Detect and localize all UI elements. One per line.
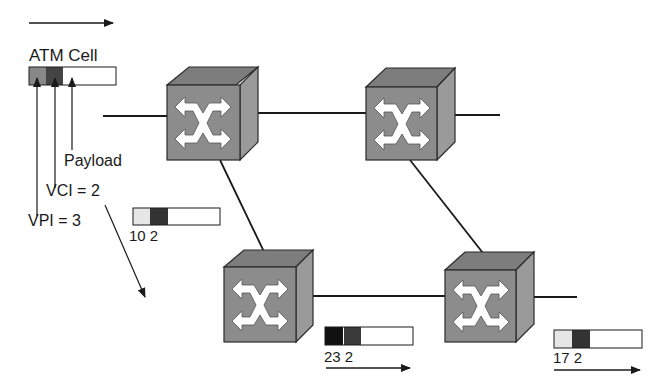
cell-2-header	[325, 327, 413, 345]
cell-2-label: 23 2	[324, 349, 353, 364]
cell-1-label: 10 2	[129, 228, 158, 243]
atm-cell-title: ATM Cell	[29, 47, 98, 64]
cell-3-label: 17 2	[553, 350, 582, 365]
vpi-label: VPI = 3	[28, 213, 81, 229]
vci-label: VCI = 2	[46, 183, 100, 199]
cell-1-header	[133, 208, 220, 225]
switch-top-left[interactable]	[167, 67, 258, 160]
cell-3-header	[554, 330, 642, 348]
payload-label: Payload	[64, 153, 122, 169]
switch-top-right[interactable]	[366, 68, 455, 160]
switch-bottom-right[interactable]	[445, 252, 534, 342]
switch-bottom-left[interactable]	[224, 250, 313, 342]
